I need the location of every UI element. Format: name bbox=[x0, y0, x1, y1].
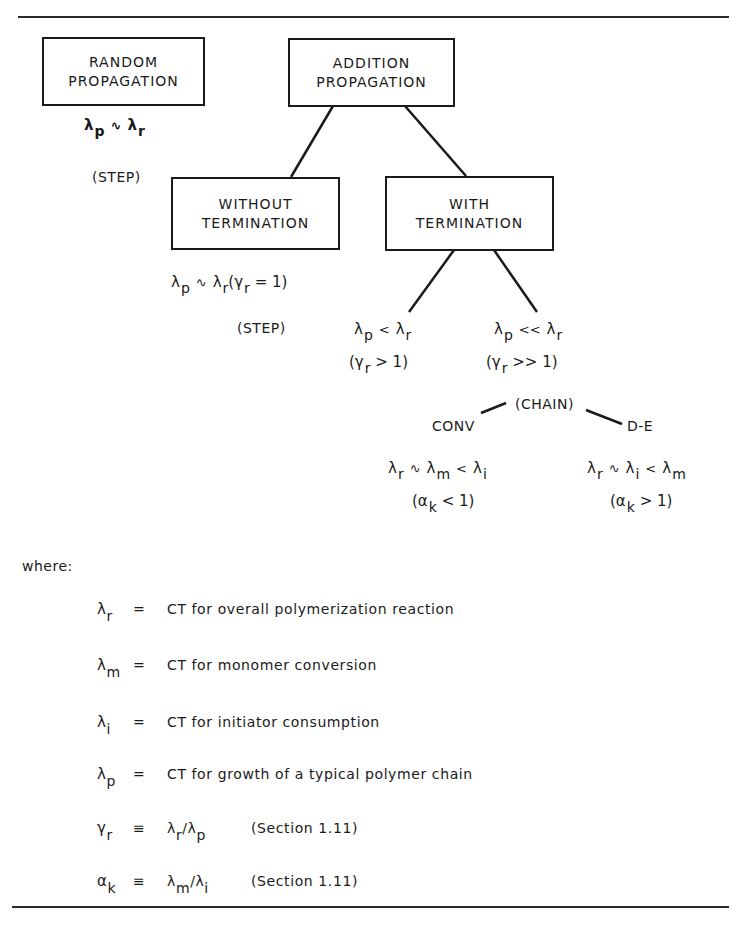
random-type-label: (STEP) bbox=[92, 169, 141, 185]
without-type-label: (STEP) bbox=[237, 320, 286, 336]
definition-gamma-r: γr≡λr/λp(Section 1.11) bbox=[97, 819, 358, 837]
with-left-condition: (γr > 1) bbox=[349, 353, 408, 371]
legend-intro: where: bbox=[22, 558, 73, 574]
node-label-line1: RANDOM bbox=[89, 53, 158, 72]
node-label-line1: WITHOUT bbox=[219, 195, 293, 214]
with-right-condition: (γr >> 1) bbox=[486, 353, 558, 371]
conv-condition: (αk < 1) bbox=[412, 492, 474, 510]
node-label-line2: TERMINATION bbox=[202, 214, 309, 233]
de-relation: λr∿λi<λm bbox=[587, 459, 686, 477]
node-random-propagation: RANDOM PROPAGATION bbox=[42, 37, 205, 106]
conv-relation: λr∿λm<λi bbox=[388, 459, 487, 477]
node-with-termination: WITH TERMINATION bbox=[385, 176, 554, 251]
node-addition-propagation: ADDITION PROPAGATION bbox=[288, 38, 455, 107]
definition-lambda-i: λi=CT for initiator consumption bbox=[97, 713, 380, 731]
node-without-termination: WITHOUT TERMINATION bbox=[171, 177, 340, 250]
de-label: D-E bbox=[627, 418, 653, 434]
conv-label: CONV bbox=[432, 418, 475, 434]
node-label-line2: PROPAGATION bbox=[316, 73, 427, 92]
node-label-line1: WITH bbox=[449, 195, 490, 214]
definition-alpha-k: αk≡λm/λi(Section 1.11) bbox=[97, 872, 358, 890]
node-label-line2: PROPAGATION bbox=[68, 72, 179, 91]
definition-lambda-p: λp=CT for growth of a typical polymer ch… bbox=[97, 765, 473, 783]
definition-lambda-r: λr=CT for overall polymerization reactio… bbox=[97, 600, 454, 618]
definition-lambda-m: λm=CT for monomer conversion bbox=[97, 656, 377, 674]
node-label-line2: TERMINATION bbox=[416, 214, 523, 233]
chain-label: (CHAIN) bbox=[515, 396, 574, 412]
de-condition: (αk > 1) bbox=[610, 492, 672, 510]
without-relation: λp∿λr(γr = 1) bbox=[171, 273, 287, 291]
node-label-line1: ADDITION bbox=[333, 54, 410, 73]
with-right-relation: λp<<λr bbox=[494, 320, 562, 338]
random-relation: λp∿λr bbox=[84, 116, 145, 134]
bottom-rule bbox=[12, 906, 729, 908]
with-left-relation: λp<λr bbox=[354, 320, 411, 338]
